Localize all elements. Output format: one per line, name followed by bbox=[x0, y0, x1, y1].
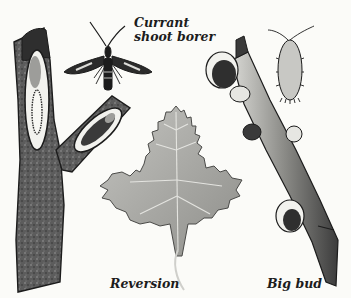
label-currant-shoot-borer: Currant shoot borer bbox=[134, 16, 215, 44]
reversion-leaf bbox=[100, 106, 242, 290]
tunnel-pith bbox=[29, 56, 41, 88]
swollen-bud bbox=[230, 86, 250, 102]
swollen-bud bbox=[286, 126, 302, 142]
illustration: Currant shoot borer Reversion Big bud bbox=[0, 0, 351, 298]
leaf-blade bbox=[100, 106, 242, 256]
label-big-bud: Big bud bbox=[267, 277, 322, 291]
borer-larva bbox=[32, 90, 42, 134]
label-reversion: Reversion bbox=[110, 277, 179, 291]
swollen-bud bbox=[243, 124, 261, 140]
swollen-bud bbox=[206, 52, 238, 88]
big-bud-twig bbox=[206, 36, 338, 286]
gall-mite bbox=[268, 26, 314, 104]
swollen-bud bbox=[276, 200, 304, 232]
label-borer-line2: shoot borer bbox=[134, 30, 215, 44]
label-borer-line1: Currant bbox=[134, 16, 215, 30]
illustration-art bbox=[0, 0, 351, 298]
